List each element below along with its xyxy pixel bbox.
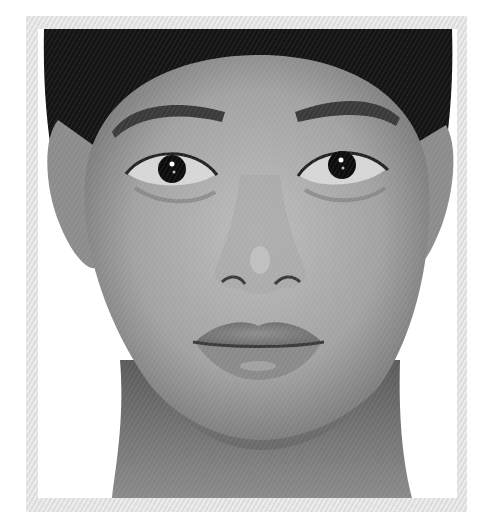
portrait-illustration bbox=[38, 29, 457, 498]
portrait-photo bbox=[38, 29, 457, 498]
